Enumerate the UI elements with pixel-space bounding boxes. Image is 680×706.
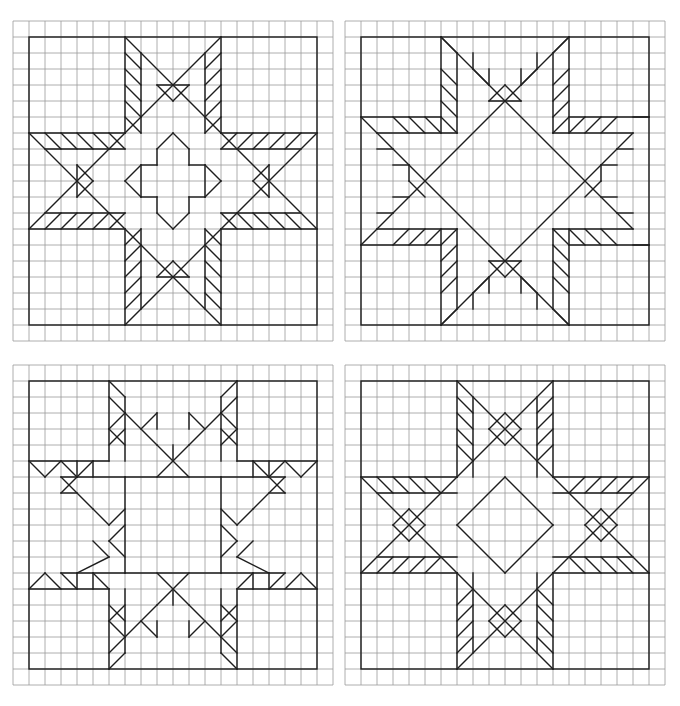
- grid-drawing-bottom-right: [344, 364, 666, 686]
- grid-drawing-top-right: [344, 20, 666, 342]
- grid-drawing-bottom-left: [12, 364, 334, 686]
- grid-lines: [345, 21, 665, 341]
- grid-lines: [13, 21, 333, 341]
- panel-bottom-left: [12, 364, 334, 686]
- panel-top-left: [12, 20, 334, 342]
- grid-lines: [13, 365, 333, 685]
- panel-top-right: [344, 20, 666, 342]
- grid-drawing-top-left: [12, 20, 334, 342]
- panel-bottom-right: [344, 364, 666, 686]
